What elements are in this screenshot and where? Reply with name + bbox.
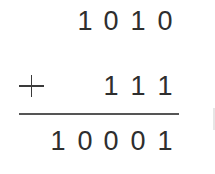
addend-2-digit: 1 bbox=[98, 71, 124, 101]
addend-2-digit: 1 bbox=[125, 71, 151, 101]
addend-2-row: 1 1 1 bbox=[0, 71, 215, 101]
addend-1-digit: 0 bbox=[98, 6, 124, 36]
edge-artifact bbox=[213, 108, 215, 130]
sum-rule-line bbox=[19, 113, 179, 115]
addend-1-digit: 0 bbox=[152, 6, 178, 36]
addend-1-row: 1 0 1 0 bbox=[0, 6, 215, 36]
addend-1-digit: 1 bbox=[125, 6, 151, 36]
sum-digit: 0 bbox=[98, 126, 124, 156]
sum-digit: 1 bbox=[152, 126, 178, 156]
sum-digit: 0 bbox=[72, 126, 98, 156]
sum-row: 1 0 0 0 1 bbox=[0, 126, 215, 156]
addend-1-digit: 1 bbox=[72, 6, 98, 36]
sum-digit: 1 bbox=[45, 126, 71, 156]
sum-digit: 0 bbox=[125, 126, 151, 156]
addend-2-digit: 1 bbox=[152, 71, 178, 101]
